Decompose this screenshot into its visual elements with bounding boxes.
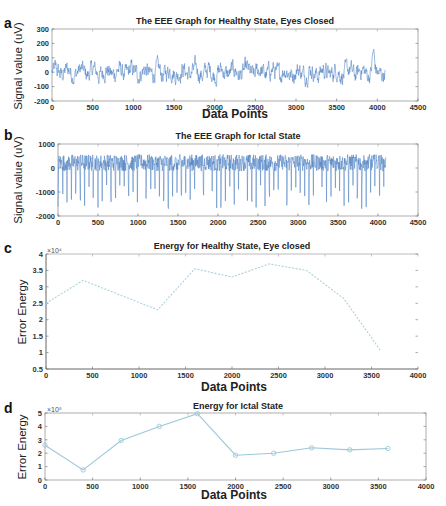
- x-tick-label: 0: [44, 371, 48, 380]
- y-tick-label: 1: [39, 348, 43, 357]
- y-exponent-c: ×10⁴: [47, 247, 62, 254]
- series-line: [46, 264, 381, 351]
- y-tick-label: -200: [34, 97, 49, 106]
- plot-frame: [52, 29, 418, 101]
- x-tick-label: 3500: [370, 482, 387, 491]
- y-tick-label: 0: [38, 476, 42, 485]
- x-tick-label: 1000: [130, 218, 147, 227]
- x-tick-label: 3000: [322, 482, 339, 491]
- x-tick-label: 1000: [125, 103, 142, 112]
- axes-d: 05001000150020002500300035004000012345: [38, 409, 435, 491]
- x-tick-label: 3500: [328, 103, 345, 112]
- x-tick-label: 2500: [247, 103, 264, 112]
- y-tick-label: 3: [38, 436, 42, 445]
- x-tick-label: 4500: [410, 218, 427, 227]
- y-axis-label-c: Error Energy: [16, 279, 28, 344]
- panel-b: b The EEE Graph for Ictal State Signal v…: [4, 127, 426, 227]
- y-tick-label: 1.5: [33, 332, 43, 341]
- plot-frame: [45, 413, 426, 480]
- y-tick-label: 2.5: [33, 299, 43, 308]
- x-tick-label: 0: [56, 218, 60, 227]
- x-tick-label: 4000: [410, 371, 427, 380]
- y-axis-label-a: Signal value (uV): [12, 22, 24, 110]
- x-tick-label: 2500: [275, 482, 292, 491]
- y-tick-label: 2: [39, 315, 43, 324]
- x-tick-label: 500: [86, 371, 99, 380]
- x-tick-label: 1500: [177, 371, 194, 380]
- x-tick-label: 2000: [206, 103, 223, 112]
- panel-a: a The EEE Graph for Healthy State, Eyes …: [4, 15, 426, 121]
- chart-title-a: The EEE Graph for Healthy State, Eyes Cl…: [136, 16, 334, 26]
- y-tick-label: 3: [39, 283, 43, 292]
- y-exponent-d: ×10⁸: [47, 406, 62, 413]
- x-tick-label: 500: [86, 482, 99, 491]
- x-tick-label: 4000: [418, 482, 435, 491]
- x-tick-label: 0: [43, 482, 47, 491]
- x-tick-label: 2000: [210, 218, 227, 227]
- y-tick-label: 0.5: [33, 365, 43, 374]
- chart-title-d: Energy for Ictal State: [193, 401, 283, 411]
- x-tick-label: 2500: [250, 218, 267, 227]
- x-tick-label: 3000: [290, 218, 307, 227]
- x-tick-label: 500: [86, 103, 99, 112]
- panel-d: d Energy for Ictal State ×10⁸ Error Ener…: [4, 400, 434, 502]
- y-tick-label: -2000: [36, 212, 55, 221]
- y-tick-label: 0: [51, 164, 55, 173]
- x-tick-label: 2000: [227, 482, 244, 491]
- x-tick-label: 4500: [410, 103, 427, 112]
- panel-label-d: d: [4, 400, 13, 416]
- axes-c: 050010001500200025003000350040000.511.52…: [33, 250, 427, 380]
- chart-title-c: Energy for Healthy State, Eye closed: [154, 241, 311, 251]
- y-tick-label: 100: [36, 54, 49, 63]
- y-tick-label: 4: [39, 250, 44, 259]
- x-tick-label: 1500: [170, 218, 187, 227]
- x-tick-label: 2500: [270, 371, 287, 380]
- figure: a The EEE Graph for Healthy State, Eyes …: [0, 0, 446, 506]
- y-tick-label: 4: [38, 422, 43, 431]
- x-tick-label: 3000: [288, 103, 305, 112]
- panel-label-a: a: [4, 15, 12, 31]
- y-tick-label: 3.5: [33, 266, 43, 275]
- x-tick-label: 4000: [369, 103, 386, 112]
- plot-frame: [58, 144, 418, 216]
- y-tick-label: 2: [38, 449, 42, 458]
- y-tick-label: 0: [45, 68, 49, 77]
- x-tick-label: 1500: [166, 103, 183, 112]
- y-tick-label: 200: [36, 39, 49, 48]
- x-tick-label: 2000: [224, 371, 241, 380]
- x-tick-label: 3500: [330, 218, 347, 227]
- chart-title-b: The EEE Graph for Ictal State: [175, 131, 300, 141]
- axes-b: 050010001500200025003000350040004500-200…: [36, 140, 427, 227]
- y-axis-label-d: Error Energy: [16, 414, 28, 479]
- series-line: [45, 414, 388, 470]
- panel-label-c: c: [4, 240, 12, 256]
- y-tick-label: -100: [34, 82, 49, 91]
- y-tick-label: 300: [36, 25, 49, 34]
- y-tick-label: 1: [38, 462, 42, 471]
- signal-line: [52, 49, 385, 87]
- x-tick-label: 3500: [363, 371, 380, 380]
- x-tick-label: 4000: [370, 218, 387, 227]
- y-tick-label: 1000: [38, 140, 55, 149]
- x-tick-label: 1000: [131, 371, 148, 380]
- y-tick-label: -1000: [36, 188, 55, 197]
- x-axis-label-c: Data Points: [201, 380, 267, 394]
- x-tick-label: 1000: [132, 482, 149, 491]
- panel-c: c Energy for Healthy State, Eye closed ×…: [4, 240, 426, 394]
- signal-line: [58, 154, 386, 208]
- y-tick-label: 5: [38, 409, 42, 418]
- x-tick-label: 1500: [180, 482, 197, 491]
- x-tick-label: 3000: [317, 371, 334, 380]
- y-axis-label-b: Signal value (uV): [12, 136, 24, 224]
- x-tick-label: 500: [92, 218, 105, 227]
- x-tick-label: 0: [50, 103, 54, 112]
- axes-a: 050010001500200025003000350040004500-200…: [34, 25, 426, 112]
